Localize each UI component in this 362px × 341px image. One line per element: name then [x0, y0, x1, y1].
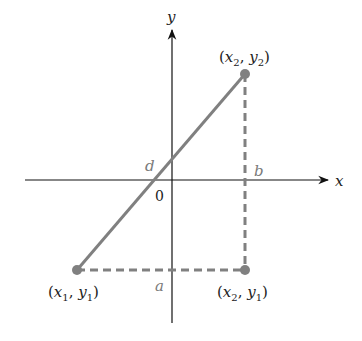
x-axis-label: x	[335, 172, 344, 190]
point-x2-y1	[240, 265, 250, 275]
hypotenuse-d	[77, 74, 245, 270]
point-label-x1-y1: (x1, y1)	[48, 283, 99, 303]
point-label-x2-y1: (x2, y1)	[217, 283, 268, 303]
hypotenuse-label-d: d	[145, 157, 155, 175]
origin-label: 0	[155, 188, 164, 204]
leg-label-a: a	[155, 277, 164, 295]
point-x2-y2	[240, 69, 250, 79]
point-label-x2-y2: (x2, y2)	[219, 48, 270, 68]
distance-diagram: y x 0 d b a (x2, y2) (x1, y1) (x2, y1)	[0, 0, 362, 341]
leg-label-b: b	[254, 162, 264, 180]
y-axis-label: y	[166, 8, 176, 26]
point-x1-y1	[72, 265, 82, 275]
